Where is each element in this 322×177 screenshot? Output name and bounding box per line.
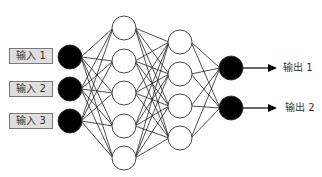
edge	[81, 121, 113, 126]
hidden1-node-4	[112, 114, 136, 138]
input-label-2: 输入 2	[9, 81, 53, 97]
hidden2-node-4	[168, 126, 192, 150]
input-label-1: 输入 1	[9, 48, 53, 64]
edge	[81, 121, 113, 158]
hidden1-node-3	[112, 81, 136, 105]
hidden2-node-2	[168, 62, 192, 86]
edge	[191, 68, 220, 106]
edge	[81, 28, 113, 89]
edges	[81, 28, 220, 158]
arrowhead-icon	[268, 64, 277, 72]
edge	[191, 42, 220, 68]
hidden1-node-5	[112, 146, 136, 170]
hidden2-node-1	[168, 30, 192, 54]
hidden1-node-2	[112, 49, 136, 73]
output-node-1	[219, 56, 243, 80]
hidden2-node-3	[168, 94, 192, 118]
hidden1-node-1	[112, 16, 136, 40]
edge	[135, 74, 169, 158]
output-label-1: 输出 1	[283, 62, 313, 74]
edge	[191, 106, 220, 108]
edge	[191, 42, 220, 108]
input-node-1	[58, 45, 82, 69]
input-node-3	[58, 109, 82, 133]
input-node-2	[58, 77, 82, 101]
output-label-2: 输出 2	[285, 102, 315, 114]
arrowhead-icon	[268, 104, 277, 112]
edge	[81, 61, 113, 121]
output-node-2	[219, 96, 243, 120]
edge	[191, 108, 220, 138]
input-label-3: 输入 3	[9, 113, 53, 129]
